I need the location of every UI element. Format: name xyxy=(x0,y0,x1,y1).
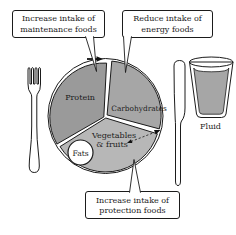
protein-label: Protein xyxy=(65,93,95,102)
maintenance-callout-line1: Increase intake of xyxy=(22,14,96,23)
energy-callout-line1: Reduce intake of xyxy=(133,14,202,23)
vegetables-label-line1: Vegetables xyxy=(91,131,136,140)
glass-liquid xyxy=(194,68,229,114)
protection-callout-line1: Increase intake of xyxy=(96,196,170,205)
vegetables-label-line2: & fruits xyxy=(96,140,127,149)
protection-callout-line2: protection foods xyxy=(99,206,165,215)
maintenance-callout-line2: maintenance foods xyxy=(20,25,97,34)
glass-icon xyxy=(190,57,234,118)
knife-icon xyxy=(174,61,185,186)
fork-icon xyxy=(28,68,41,173)
carbohydrates-label: Carbohydrates xyxy=(111,104,167,113)
diagram-canvas: Protein Carbohydrates Vegetables & fruit… xyxy=(0,0,236,235)
fats-label: Fats xyxy=(72,149,88,158)
food-plate-diagram: Protein Carbohydrates Vegetables & fruit… xyxy=(0,0,236,235)
energy-callout-line2: energy foods xyxy=(141,25,193,34)
fluid-label: Fluid xyxy=(200,122,221,131)
